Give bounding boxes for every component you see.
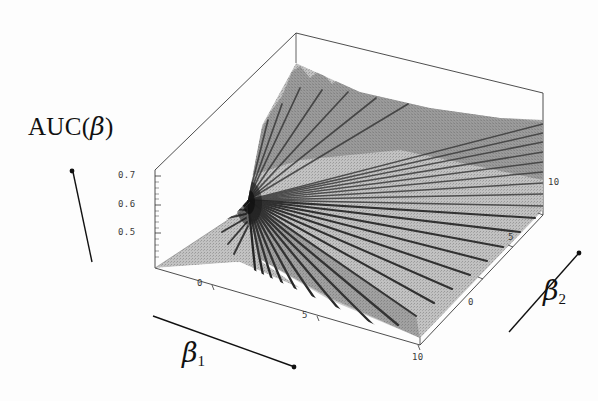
x1-axis-title-subscript: 1 bbox=[198, 353, 206, 369]
x2-tick-label-1: 5 bbox=[508, 232, 514, 242]
auc-surface bbox=[155, 63, 543, 338]
ridge bbox=[212, 186, 246, 204]
x2-axis-title: β2 bbox=[543, 275, 566, 308]
surface-plot-canvas bbox=[0, 0, 598, 401]
x1-tick-label-0: 0 bbox=[197, 278, 203, 288]
x1-axis-title: β1 bbox=[182, 337, 205, 370]
z-tick-label-0: 0.7 bbox=[118, 170, 135, 180]
x1-axis-arrow bbox=[153, 316, 296, 369]
z-axis-arrow bbox=[70, 169, 92, 262]
x2-axis-title-subscript: 2 bbox=[559, 291, 567, 307]
z-axis-title-greek: β bbox=[90, 112, 105, 141]
ridge-focal-core bbox=[243, 190, 255, 214]
z-tick-label-2: 0.5 bbox=[118, 227, 135, 237]
z-axis-title: AUC(β) bbox=[28, 112, 114, 141]
x2-axis-title-greek: β bbox=[543, 275, 559, 306]
ridge bbox=[212, 196, 246, 206]
z-axis-ticks bbox=[155, 176, 161, 233]
x2-tick-label-0: 10 bbox=[548, 177, 560, 187]
x2-tick-label-2: 0 bbox=[468, 297, 474, 307]
x1-tick-label-2: 10 bbox=[412, 352, 424, 362]
figure-root: 0.7 0.6 0.5 0 5 10 10 5 0 AUC(β) β1 β2 bbox=[0, 0, 598, 401]
z-axis-minor-ticks bbox=[155, 182, 159, 257]
z-axis-title-prefix: AUC( bbox=[28, 113, 90, 140]
x1-tick-label-1: 5 bbox=[302, 310, 308, 320]
z-axis-title-suffix: ) bbox=[105, 113, 114, 140]
z-tick-label-1: 0.6 bbox=[118, 199, 135, 209]
ridge bbox=[214, 176, 246, 202]
x1-axis-title-greek: β bbox=[182, 337, 198, 368]
